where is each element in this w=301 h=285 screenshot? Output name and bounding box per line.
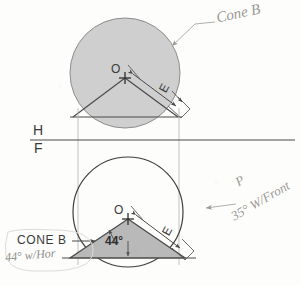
- top-view-center-label: O: [111, 62, 120, 76]
- leader-cone-b-top: [172, 22, 215, 46]
- front-view-center-label: O: [114, 203, 123, 217]
- front-view-ext-tick-near: [131, 206, 143, 220]
- front-view: [62, 157, 196, 267]
- front-view-angle-label: 44°: [105, 234, 123, 248]
- reference-line-label-f: F: [34, 140, 43, 156]
- reference-line-label-h: H: [33, 122, 43, 138]
- annotation-cone-b-callout: CONE B: [17, 233, 67, 247]
- top-view: [70, 18, 190, 128]
